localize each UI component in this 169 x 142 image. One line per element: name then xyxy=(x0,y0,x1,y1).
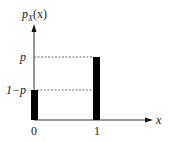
ytick-1-minus-p: 1−p xyxy=(6,83,26,97)
x-axis-arrow-icon xyxy=(145,118,153,123)
xtick-0: 0 xyxy=(31,124,37,138)
x-axis-label: x xyxy=(155,113,162,127)
y-axis-arrow-icon xyxy=(32,24,37,32)
ytick-p: p xyxy=(19,50,26,64)
y-axis-label: pX(x) xyxy=(21,7,47,23)
bernoulli-pmf-diagram: pX(x) p 1−p 0 1 x xyxy=(0,0,169,142)
xtick-1: 1 xyxy=(94,124,100,138)
bar-x0 xyxy=(31,90,38,120)
bar-x1 xyxy=(93,57,100,120)
